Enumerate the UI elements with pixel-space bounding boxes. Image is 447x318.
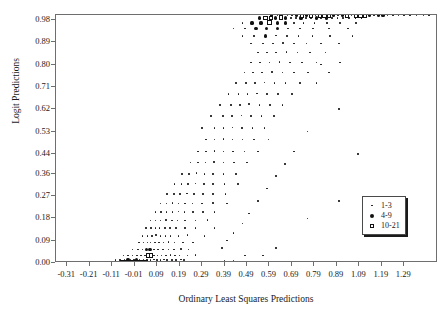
data-point: [235, 173, 237, 175]
data-point: [195, 254, 197, 256]
data-point: [325, 52, 327, 54]
data-point: [301, 62, 303, 64]
data-point: [140, 255, 142, 257]
y-axis-tick-mark: [51, 64, 55, 65]
data-point: [262, 255, 264, 257]
data-point: [287, 28, 289, 30]
data-point: [172, 202, 174, 204]
data-point: [409, 15, 411, 16]
data-point: [266, 52, 268, 54]
data-point: [226, 203, 228, 205]
legend-item[interactable]: 1-3: [366, 201, 400, 210]
data-point: [159, 227, 161, 229]
data-point: [165, 219, 167, 221]
data-point: [172, 211, 174, 213]
data-point: [235, 82, 237, 84]
data-point: [363, 15, 367, 18]
data-point: [174, 183, 176, 185]
data-point: [305, 15, 308, 17]
data-point: [166, 211, 168, 213]
data-point: [246, 162, 248, 164]
data-point: [161, 255, 163, 257]
data-point: [368, 15, 371, 17]
x-axis-tick-mark: [111, 262, 112, 266]
data-point: [233, 162, 235, 164]
legend-item[interactable]: 10-21: [366, 221, 400, 230]
data-point: [204, 235, 206, 237]
data-point: [158, 242, 160, 244]
y-axis-tick-mark: [51, 131, 55, 132]
data-point: [258, 16, 261, 19]
data-point: [142, 235, 144, 237]
data-point: [285, 82, 287, 84]
data-point: [266, 188, 268, 190]
open-square-icon: [366, 224, 378, 228]
data-point: [145, 227, 147, 229]
data-point: [219, 104, 221, 106]
data-point: [221, 247, 223, 249]
data-point: [316, 62, 318, 64]
y-axis-tick-mark: [51, 195, 55, 196]
y-axis-tick-label: 0.09: [10, 236, 50, 245]
data-point: [286, 51, 288, 53]
data-point: [150, 227, 152, 229]
data-point: [196, 172, 198, 174]
y-axis-title: Logit Predictions: [11, 31, 21, 151]
data-point: [230, 104, 232, 106]
data-point: [273, 115, 275, 117]
data-point: [223, 162, 225, 164]
data-point: [184, 211, 186, 213]
data-point: [182, 242, 184, 244]
y-axis-tick-mark: [51, 217, 55, 218]
x-axis-tick-mark: [246, 262, 247, 266]
data-point: [355, 22, 357, 24]
data-point: [338, 43, 340, 45]
data-point: [188, 173, 190, 175]
data-point: [155, 220, 157, 222]
data-point: [223, 138, 225, 140]
data-point: [257, 200, 259, 202]
data-point: [320, 43, 322, 45]
data-point: [327, 15, 331, 18]
data-point: [205, 151, 207, 153]
data-point: [241, 115, 243, 117]
data-point: [352, 35, 354, 37]
x-axis-tick-mark: [134, 262, 135, 266]
small-dot-icon: [366, 205, 378, 207]
data-point: [282, 42, 284, 44]
legend[interactable]: 1-34-910-21: [362, 196, 406, 235]
legend-item-label: 10-21: [381, 222, 400, 230]
data-point: [338, 108, 340, 110]
y-axis-tick-mark: [51, 240, 55, 241]
data-point: [192, 203, 194, 205]
data-point: [169, 227, 171, 229]
data-point: [183, 259, 185, 261]
legend-item[interactable]: 4-9: [366, 211, 400, 220]
data-point: [259, 62, 261, 64]
y-axis-tick-mark: [51, 153, 55, 154]
data-point: [223, 151, 225, 153]
data-point: [197, 151, 199, 153]
x-axis-tick-mark: [224, 262, 225, 266]
data-point: [250, 115, 252, 117]
x-axis-tick-mark: [268, 262, 269, 266]
data-point: [282, 72, 284, 74]
x-axis-tick-mark: [201, 262, 202, 266]
data-point: [337, 15, 339, 16]
y-axis-tick-mark: [51, 41, 55, 42]
x-axis-tick-mark: [179, 262, 180, 266]
data-point: [171, 259, 173, 261]
data-point: [275, 247, 277, 249]
data-point: [184, 203, 186, 205]
data-point: [214, 150, 216, 152]
data-point: [339, 22, 341, 24]
data-point: [174, 255, 176, 257]
x-axis-title: Ordinary Least Squares Predictions: [55, 294, 437, 304]
data-point: [398, 15, 400, 16]
chart-container: 0.000.090.180.270.360.440.530.620.710.80…: [0, 0, 447, 318]
data-point: [204, 173, 206, 175]
data-point: [256, 93, 258, 95]
data-point: [238, 93, 240, 95]
data-point: [150, 259, 152, 261]
y-axis-tick-mark: [51, 173, 55, 174]
